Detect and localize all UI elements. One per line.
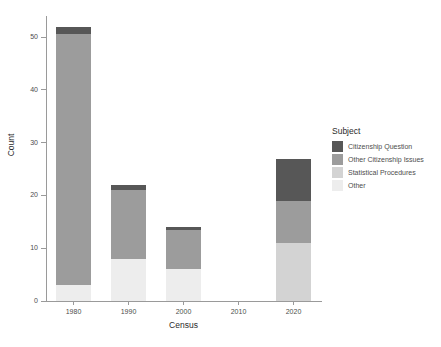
legend-item[interactable]: Other (332, 179, 437, 192)
x-axis-tick (238, 301, 239, 305)
y-axis-tick-label: 40 (12, 86, 38, 94)
y-axis-tick (41, 301, 46, 302)
bar-group[interactable] (111, 16, 145, 301)
bar-segment[interactable] (276, 201, 310, 243)
x-axis-tick-label: 2010 (215, 307, 263, 316)
x-axis-tick-label: 1990 (105, 307, 153, 316)
legend-swatch-icon (332, 167, 343, 178)
x-axis-tick-label: 2020 (270, 307, 318, 316)
y-axis-tick-label: 20 (12, 191, 38, 199)
legend-item-label: Other Citizenship Issues (348, 156, 424, 164)
bar-segment[interactable] (166, 230, 200, 270)
bar-segment[interactable] (56, 285, 90, 301)
bar-segment[interactable] (166, 227, 200, 230)
bar-segment[interactable] (276, 159, 310, 201)
y-axis-tick-label: 50 (12, 33, 38, 41)
legend-item-list: Citizenship QuestionOther Citizenship Is… (332, 140, 437, 192)
y-axis-line (46, 16, 47, 301)
bar-segment[interactable] (166, 269, 200, 301)
legend-swatch-icon (332, 141, 343, 152)
legend-item-label: Other (348, 182, 366, 190)
x-axis-tick (73, 301, 74, 305)
bar-segment[interactable] (111, 190, 145, 259)
x-axis-tick (128, 301, 129, 305)
y-axis-tick (41, 37, 46, 38)
bar-segment[interactable] (56, 34, 90, 285)
y-axis-tick (41, 248, 46, 249)
bar-segment[interactable] (111, 185, 145, 190)
bar-segment[interactable] (276, 243, 310, 301)
bar-group[interactable] (221, 16, 255, 301)
x-axis-tick-label: 1980 (50, 307, 98, 316)
y-axis-tick (41, 195, 46, 196)
legend-item[interactable]: Statistical Procedures (332, 166, 437, 179)
bar-segment[interactable] (56, 27, 90, 35)
y-axis-tick (41, 142, 46, 143)
y-axis-title: Count (6, 100, 16, 190)
legend-item[interactable]: Other Citizenship Issues (332, 153, 437, 166)
y-axis-tick (41, 89, 46, 90)
x-axis-tick (293, 301, 294, 305)
x-axis-title: Census (46, 320, 321, 330)
legend-swatch-icon (332, 180, 343, 191)
stacked-bar-chart: 01020304050 19801990200020102020 Census … (0, 0, 441, 347)
legend-item[interactable]: Citizenship Question (332, 140, 437, 153)
bar-group[interactable] (56, 16, 90, 301)
x-axis-tick (183, 301, 184, 305)
plot-panel (46, 16, 321, 301)
legend: Subject Citizenship QuestionOther Citize… (332, 126, 437, 192)
legend-title: Subject (332, 126, 437, 136)
legend-item-label: Statistical Procedures (348, 169, 416, 177)
legend-item-label: Citizenship Question (348, 143, 412, 151)
legend-swatch-icon (332, 154, 343, 165)
y-axis-tick-label: 0 (12, 297, 38, 305)
bar-group[interactable] (276, 16, 310, 301)
bar-segment[interactable] (111, 259, 145, 301)
bar-group[interactable] (166, 16, 200, 301)
x-axis-tick-label: 2000 (160, 307, 208, 316)
y-axis-tick-label: 10 (12, 244, 38, 252)
